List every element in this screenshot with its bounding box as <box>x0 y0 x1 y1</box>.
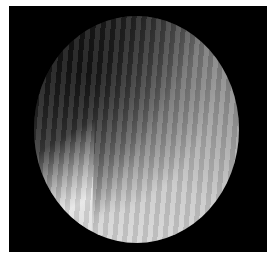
figure-caption <box>0 258 272 265</box>
fringe-stripes <box>34 16 239 243</box>
circular-field-of-view <box>34 16 239 243</box>
